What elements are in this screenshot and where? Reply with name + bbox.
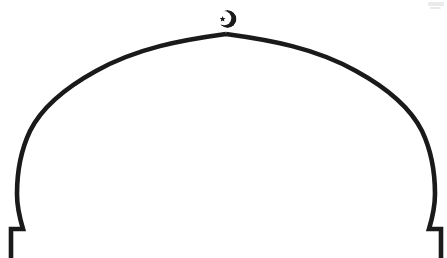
figure-canvas: Ogee dome outline <box>0 0 447 258</box>
scan-artifact-secondary <box>430 7 441 9</box>
figure-background <box>0 0 447 258</box>
scan-artifact <box>428 2 444 6</box>
finial-group <box>219 10 237 28</box>
dome-figure-svg <box>0 0 447 258</box>
